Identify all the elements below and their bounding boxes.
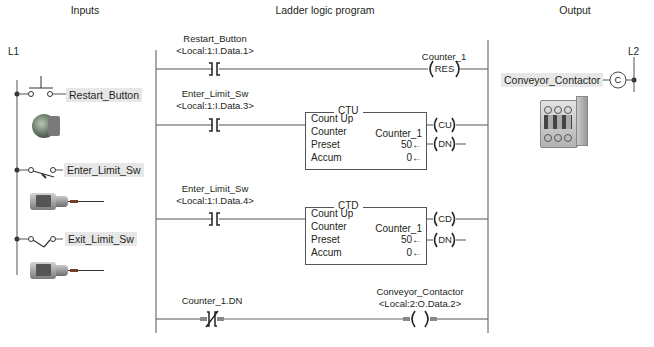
inputs-header: Inputs	[40, 4, 130, 16]
ctd-row-counter: Counter	[311, 221, 347, 232]
rung2-contact-address: <Local:1:I.Data.3>	[160, 100, 270, 111]
ctu-row-accum: Accum	[311, 152, 342, 163]
ctu-accum-value[interactable]: 0←	[406, 152, 422, 163]
rung2-contact-tag: Enter_Limit_Sw	[165, 88, 265, 99]
input-exit-limit-sw-label: Exit_Limit_Sw	[65, 232, 137, 246]
ctd-counter-value: Counter_1	[375, 223, 422, 234]
ctu-dn-output: DN	[436, 138, 454, 149]
ctu-preset-value[interactable]: 50←	[401, 139, 422, 150]
ctu-counter-value: Counter_1	[375, 128, 422, 139]
ctd-row-accum: Accum	[311, 247, 342, 258]
ctd-accum-value[interactable]: 0←	[406, 247, 422, 258]
ctd-block[interactable]: CTD Count Up Counter Preset Accum Counte…	[305, 207, 427, 265]
rung1-res-coil[interactable]: RES	[433, 63, 456, 74]
ctd-dn-output: DN	[436, 234, 454, 245]
ctd-row-preset: Preset	[311, 234, 340, 245]
rung1-contact-address: <Local:1:I.Data.1>	[160, 45, 270, 56]
ladder-header: Ladder logic program	[255, 4, 395, 16]
l2-rail-label: L2	[628, 46, 639, 57]
rung4-coil-address: <Local:2:O.Data.2>	[365, 298, 475, 309]
rung1-xic-contact[interactable]	[205, 61, 225, 77]
rung3-contact-address: <Local:1:I.Data.4>	[160, 195, 270, 206]
limit-switch-icon	[30, 260, 110, 282]
rung4-coil-tag: Conveyor_Contactor	[370, 286, 470, 297]
rung3-xic-contact[interactable]	[205, 211, 225, 227]
ctd-cd-output: CD	[436, 213, 454, 224]
rung4-output-coil[interactable]	[409, 311, 431, 327]
ctu-row-counter: Counter	[311, 126, 347, 137]
pushbutton-icon	[28, 112, 60, 140]
rung2-xic-contact[interactable]	[205, 117, 225, 133]
contactor-icon	[540, 96, 588, 148]
ctu-cu-output: CU	[436, 119, 454, 130]
limit-switch-icon	[30, 191, 110, 213]
ctd-preset-value[interactable]: 50←	[401, 234, 422, 245]
ctu-row-preset: Preset	[311, 139, 340, 150]
output-header: Output	[530, 4, 620, 16]
l1-rail-label: L1	[8, 46, 19, 57]
ctd-row-count-up: Count Up	[311, 208, 353, 219]
rung4-xio-contact[interactable]	[200, 311, 224, 327]
rung1-contact-tag: Restart_Button	[165, 33, 265, 44]
output-conveyor-contactor-label: Conveyor_Contactor	[501, 73, 603, 87]
input-enter-limit-sw-label: Enter_Limit_Sw	[64, 163, 144, 177]
rung1-coil-tag: Counter_1	[412, 51, 476, 62]
ctu-row-count-up: Count Up	[311, 113, 353, 124]
input-restart-button-label: Restart_Button	[66, 88, 142, 102]
rung3-contact-tag: Enter_Limit_Sw	[165, 183, 265, 194]
ctu-block[interactable]: CTU Count Up Counter Preset Accum Counte…	[305, 112, 427, 170]
output-coil-letter: C	[613, 74, 623, 85]
rung4-contact-tag: Counter_1.DN	[170, 295, 254, 306]
